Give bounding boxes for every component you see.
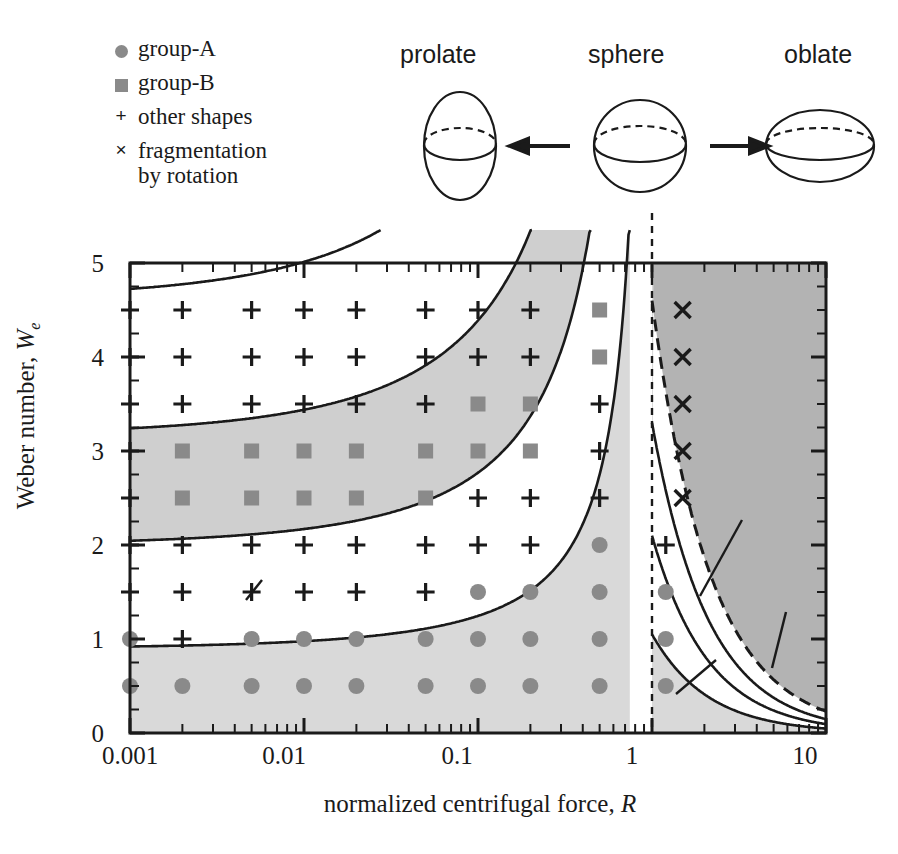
data-point-group-b [297, 444, 312, 459]
data-point-group-b [349, 444, 364, 459]
data-point-group-a [418, 631, 434, 647]
data-point-group-a [296, 631, 312, 647]
plot-canvas [0, 0, 898, 854]
data-point-group-a [658, 631, 674, 647]
data-point-group-b [418, 444, 433, 459]
data-point-group-b [471, 397, 486, 412]
data-point-group-a [470, 631, 486, 647]
data-point-group-a [658, 678, 674, 694]
data-point-group-a [244, 678, 260, 694]
data-point-group-a [470, 678, 486, 694]
data-point-group-b [592, 303, 607, 318]
data-point-group-a [348, 631, 364, 647]
data-point-group-a [296, 678, 312, 694]
data-point-group-b [244, 491, 259, 506]
data-point-group-a [592, 537, 608, 553]
data-point-group-a [174, 678, 190, 694]
data-point-group-a [522, 678, 538, 694]
data-point-group-b [523, 444, 538, 459]
data-point-group-a [418, 678, 434, 694]
phase-diagram-plot: Weber number, We normalized centrifugal … [0, 0, 898, 854]
data-point-group-b [297, 491, 312, 506]
data-point-group-a [522, 584, 538, 600]
data-point-group-a [592, 584, 608, 600]
data-point-group-b [592, 350, 607, 365]
data-point-group-a [658, 584, 674, 600]
data-point-group-b [175, 444, 190, 459]
data-point-group-a [470, 584, 486, 600]
data-point-group-a [592, 678, 608, 694]
data-point-group-b [471, 444, 486, 459]
data-point-group-b [349, 491, 364, 506]
data-point-group-b [175, 491, 190, 506]
data-point-group-b [244, 444, 259, 459]
data-point-group-a [244, 631, 260, 647]
data-point-group-a [522, 631, 538, 647]
data-point-group-b [523, 397, 538, 412]
data-point-group-a [348, 678, 364, 694]
data-point-group-a [592, 631, 608, 647]
data-point-group-b [418, 491, 433, 506]
